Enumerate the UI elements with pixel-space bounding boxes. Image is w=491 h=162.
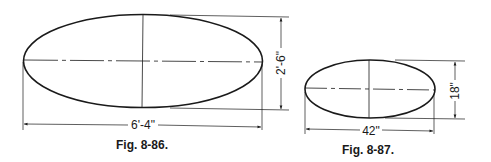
height-extension-top (395, 60, 465, 61)
figure-8-86: 6'-4" 2'-6" (23, 15, 289, 133)
figure-caption-8-87: Fig. 8-87. (342, 143, 394, 157)
height-label: 18" (448, 82, 462, 100)
height-label: 2'-6" (274, 51, 288, 75)
height-extension-bottom (170, 108, 289, 110)
major-axis-centerline (24, 60, 263, 62)
ellipse-drawings: 6'-4" 2'-6" 42" 18" (0, 0, 491, 162)
height-extension-bottom (385, 118, 465, 119)
width-dimension-line-right (382, 130, 433, 131)
width-dimension-line-right (158, 125, 261, 127)
height-extension-top (170, 15, 289, 17)
minor-axis-line (142, 15, 143, 108)
width-label: 42" (362, 124, 380, 138)
figure-caption-8-86: Fig. 8-86. (116, 138, 168, 152)
small-ellipse (305, 60, 435, 118)
major-axis-centerline (305, 88, 435, 90)
width-label: 6'-4" (131, 118, 155, 132)
width-dimension-line-left (306, 129, 360, 130)
width-dimension-line-left (24, 124, 128, 125)
figure-8-87: 42" 18" (305, 60, 465, 138)
